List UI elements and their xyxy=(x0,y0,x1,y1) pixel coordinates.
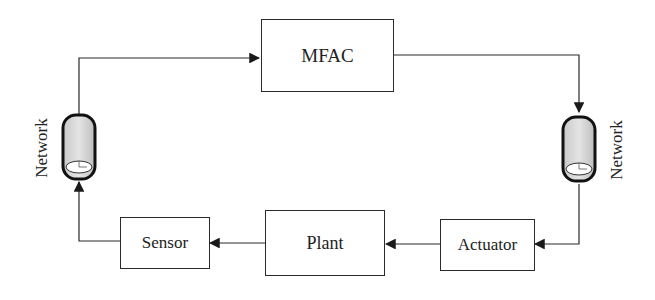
sensor-label: Sensor xyxy=(142,233,188,253)
plant-label: Plant xyxy=(306,233,343,254)
network-right-label: Network xyxy=(607,115,627,185)
plant-block: Plant xyxy=(265,210,385,276)
actuator-block: Actuator xyxy=(440,219,535,271)
mfac-to-network-line xyxy=(393,55,579,112)
sensor-block: Sensor xyxy=(120,217,210,269)
mfac-label: MFAC xyxy=(301,45,353,67)
actuator-label: Actuator xyxy=(458,235,517,255)
network-to-actuator-line xyxy=(535,184,579,244)
network-left-cylinder-icon xyxy=(63,115,95,179)
network-right-cylinder-icon xyxy=(563,117,595,181)
sensor-to-network-line xyxy=(79,182,120,241)
network-left-label: Network xyxy=(32,113,52,183)
network-to-mfac-line xyxy=(79,58,259,118)
mfac-block: MFAC xyxy=(261,19,394,92)
